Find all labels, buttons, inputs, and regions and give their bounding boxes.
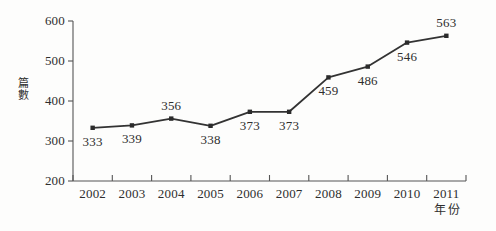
data-point-label: 546 [397, 49, 417, 65]
x-axis-tick-label: 2009 [354, 186, 381, 202]
y-axis-tick-label: 600 [31, 13, 65, 29]
data-point-label: 459 [318, 83, 338, 99]
y-axis-tick-label: 300 [31, 133, 65, 149]
y-axis-title: 篇數 [14, 78, 32, 101]
x-axis-tick-label: 2010 [394, 186, 421, 202]
data-point-label: 356 [161, 98, 181, 114]
data-point-label: 373 [279, 118, 299, 134]
y-axis-title-char: 數 [14, 90, 32, 102]
x-axis-tick-label: 2007 [276, 186, 303, 202]
y-axis-tick-label: 400 [31, 93, 65, 109]
y-axis-title-char: 篇 [14, 78, 32, 90]
y-axis-tick-label: 500 [31, 53, 65, 69]
data-point-label: 333 [83, 134, 103, 150]
x-axis-tick-label: 2004 [158, 186, 185, 202]
x-axis-title: 年份 [434, 200, 461, 218]
x-axis-tick-label: 2002 [79, 186, 106, 202]
data-point-label: 563 [436, 15, 456, 31]
chart-tick-marks [68, 21, 466, 181]
data-point-label: 338 [200, 132, 220, 148]
x-axis-tick-label: 2003 [119, 186, 146, 202]
x-axis-tick-label: 2008 [315, 186, 342, 202]
chart-data-series [93, 36, 447, 128]
x-axis-tick-label: 2005 [197, 186, 224, 202]
data-point-label: 486 [358, 73, 378, 89]
data-point-label: 373 [240, 118, 260, 134]
chart-axes [73, 21, 466, 181]
x-axis-tick-label: 2006 [236, 186, 263, 202]
chart-data-markers [90, 34, 448, 130]
y-axis-tick-label: 200 [31, 173, 65, 189]
data-point-label: 339 [122, 131, 142, 147]
line-chart-figure: 200300400500600 200220032004200520062007… [0, 0, 496, 231]
